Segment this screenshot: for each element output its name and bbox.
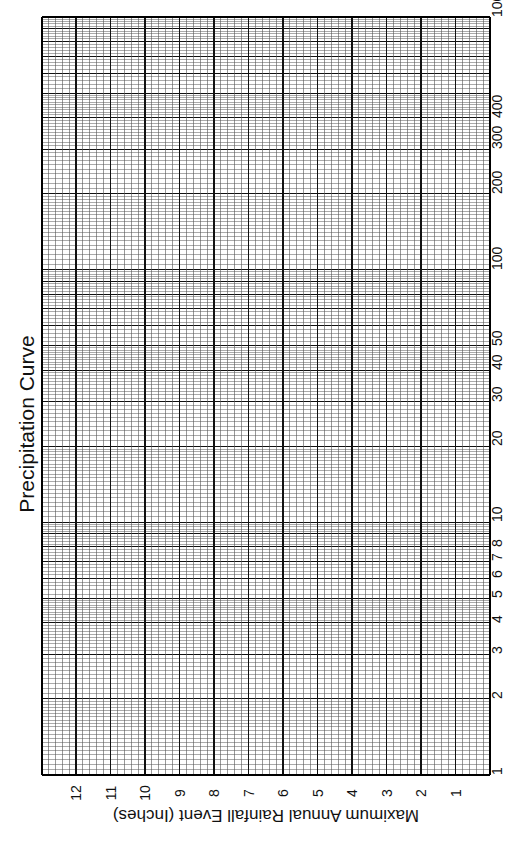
y-tick-label: 2	[413, 781, 429, 805]
y-tick-label: 3	[379, 781, 395, 805]
y-tick-label: 5	[310, 781, 326, 805]
x-tick-label: 2	[489, 659, 505, 699]
x-tick-label: 10	[489, 482, 505, 522]
x-tick-label: 1	[489, 735, 505, 775]
x-tick-label: 100	[489, 230, 505, 270]
y-axis-label: Maximum Annual Rainfall Event (Inches)	[66, 805, 466, 825]
y-tick-label: 6	[275, 781, 291, 805]
y-tick-label: 12	[68, 781, 84, 805]
y-tick-label: 8	[206, 781, 222, 805]
x-tick-label: 50	[489, 306, 505, 346]
x-tick-label: 1000	[489, 0, 505, 17]
y-tick-label: 10	[137, 781, 153, 805]
log-grid-chart	[0, 0, 532, 849]
y-tick-label: 7	[241, 781, 257, 805]
y-tick-label: 9	[172, 781, 188, 805]
y-tick-label: 1	[448, 781, 464, 805]
x-tick-label: 200	[489, 154, 505, 194]
chart-grid	[42, 17, 491, 775]
y-tick-label: 11	[103, 781, 119, 805]
y-tick-label: 4	[344, 781, 360, 805]
x-tick-label: 400	[489, 78, 505, 118]
x-tick-label: 20	[489, 406, 505, 446]
